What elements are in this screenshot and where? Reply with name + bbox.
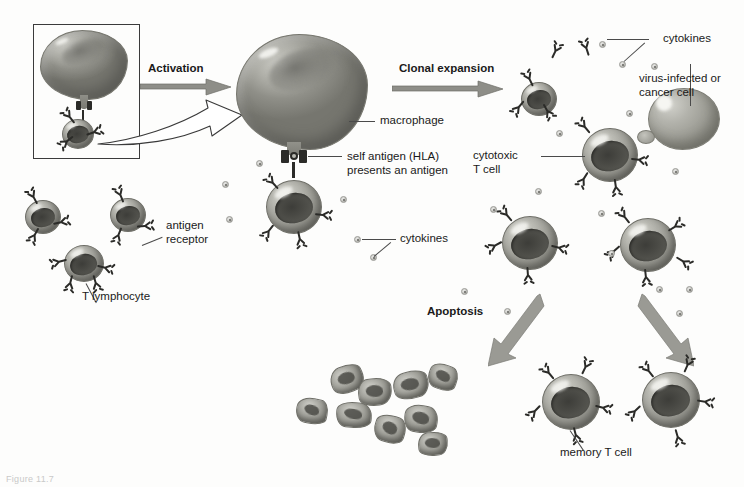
apoptosis-arrow-right <box>632 292 694 368</box>
hla-left-bracket <box>281 150 289 163</box>
leader-line-antigen-receptor <box>142 237 163 246</box>
cytokine-dot <box>598 210 605 217</box>
annotation-cytotoxic-t-cell-line1: cytotoxic <box>473 149 518 162</box>
cytokine-dot <box>619 61 626 68</box>
annotation-cytokines-right: cytokines <box>663 32 711 45</box>
cytokine-dot <box>651 63 658 70</box>
cytotoxic-t-cell <box>582 128 638 182</box>
leader-line-cancer-cell <box>690 64 691 106</box>
memory-t-cell <box>642 372 700 428</box>
cytotoxic-t-cell <box>502 216 558 270</box>
annotation-self-antigen-line2: presents an antigen <box>347 164 448 177</box>
cytokine-dot <box>599 41 606 48</box>
cytokine-dot <box>222 181 229 188</box>
inset-hla-complex <box>76 101 92 111</box>
cytokine-dot <box>354 236 361 243</box>
cytotoxic-t-cell <box>521 82 557 116</box>
cytokine-dot <box>490 206 497 213</box>
leader-line-cytokines-left-2 <box>374 242 391 257</box>
hla-right-bracket <box>299 150 307 163</box>
annotation-cytotoxic-t-cell-line2: T cell <box>473 163 500 176</box>
annotation-antigen-receptor-line1: antigen <box>166 219 204 232</box>
cytokine-dot <box>608 250 615 257</box>
target-cell-attachment <box>637 130 655 144</box>
activated-t-cell <box>266 180 322 234</box>
annotation-macrophage: macrophage <box>380 114 444 127</box>
annotation-memory-t-cell: memory T cell <box>560 446 632 459</box>
activation-arrow <box>140 78 232 96</box>
annotation-cytokines-left: cytokines <box>400 232 448 245</box>
cytokine-dot <box>461 288 468 295</box>
annotation-antigen-receptor-line2: receptor <box>166 233 208 246</box>
figure-canvas: antigen receptor T lymphocyte Activation… <box>0 0 744 487</box>
cytokine-dot <box>556 130 563 137</box>
antigen-peptide-icon <box>290 152 298 160</box>
leader-line-self-antigen <box>308 156 342 157</box>
cytokine-dot <box>226 216 233 223</box>
process-label-clonal-expansion: Clonal expansion <box>399 62 494 75</box>
apoptotic-body <box>294 395 331 427</box>
hla-tether <box>292 162 295 178</box>
cytokine-dot <box>672 168 679 175</box>
process-label-apoptosis: Apoptosis <box>427 305 483 318</box>
annotation-t-lymphocyte: T lymphocyte <box>82 290 150 303</box>
cytokine-dot <box>535 188 542 195</box>
apoptotic-body <box>390 367 432 404</box>
memory-t-cell <box>542 374 600 430</box>
annotation-self-antigen-line1: self antigen (HLA) <box>347 150 439 163</box>
cytokine-dot <box>256 160 263 167</box>
activated-macrophage <box>236 34 368 150</box>
leader-line-cytokines-right-2 <box>624 42 645 61</box>
annotation-virus-infected-line2: cancer cell <box>639 86 694 99</box>
leader-line-macrophage <box>349 121 375 122</box>
apoptotic-body <box>417 430 449 457</box>
annotation-virus-infected-line1: virus-infected or <box>639 72 721 85</box>
hla-complex <box>281 150 307 164</box>
figure-caption: Figure 11.7 <box>6 474 54 486</box>
apoptotic-body <box>356 376 394 408</box>
apoptotic-body <box>402 402 440 435</box>
resting-t-lymphocyte <box>25 200 61 234</box>
cytokine-dot <box>626 110 633 117</box>
apoptosis-arrow-left <box>488 292 550 368</box>
clonal-expansion-arrow <box>392 80 504 98</box>
leader-line-cytokines-right <box>607 39 649 40</box>
cytokine-dot <box>340 196 347 203</box>
inset-callout-arrow <box>96 96 248 152</box>
leader-line-cytotoxic-t-cell <box>541 156 585 157</box>
leader-line-cytokines-left <box>362 239 396 240</box>
process-label-activation: Activation <box>148 62 204 75</box>
apoptotic-body <box>424 359 462 394</box>
inset-macrophage <box>40 30 128 100</box>
cytotoxic-t-cell <box>620 218 676 272</box>
